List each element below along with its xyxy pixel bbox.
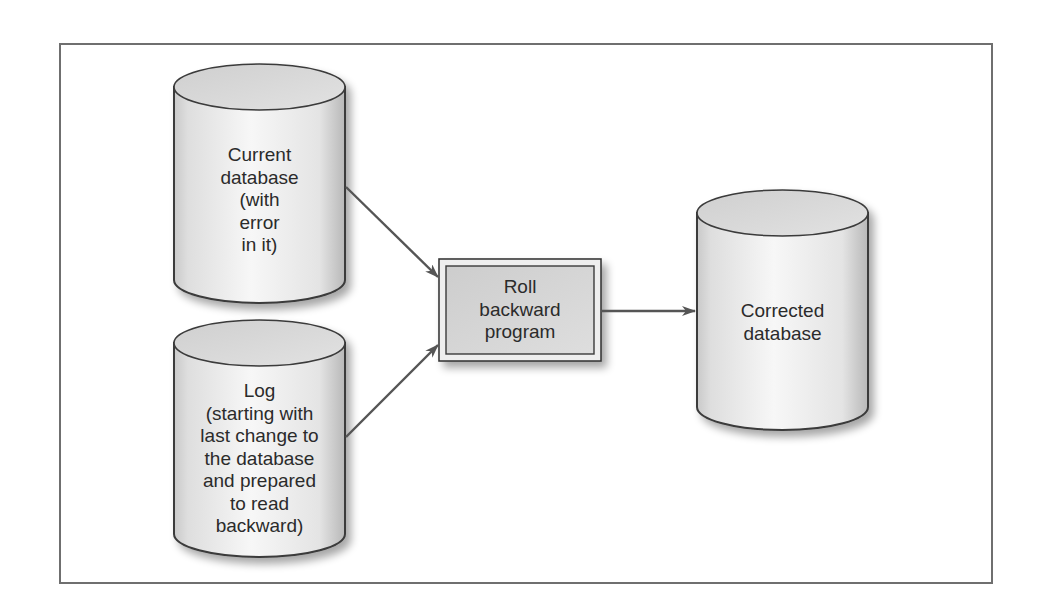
corrected-database-label: Corrected database: [697, 300, 868, 345]
arrow-current-to-program: [346, 187, 438, 277]
program-label: Roll backward program: [446, 276, 594, 344]
arrow-log-to-program: [346, 345, 438, 437]
current-database-label: Current database (with error in it): [174, 144, 345, 257]
log-label: Log (starting with last change to the da…: [174, 380, 345, 538]
